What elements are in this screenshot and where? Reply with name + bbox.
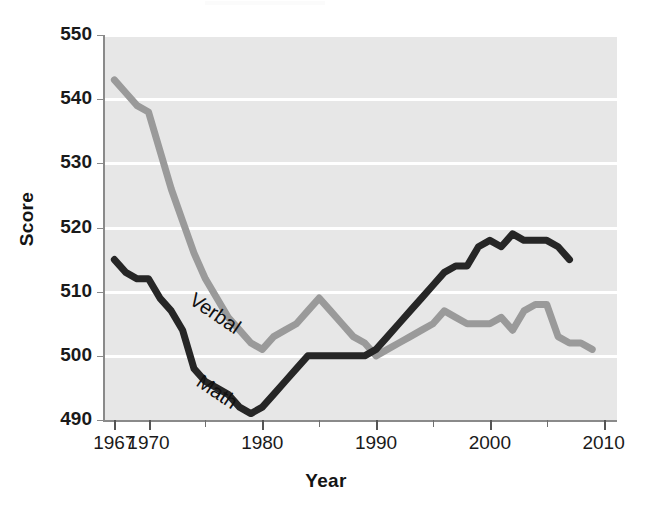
x-tick-label-1990: 1990 — [341, 432, 411, 454]
x-tick-1985 — [319, 420, 320, 427]
y-tick-label-550: 550 — [20, 23, 92, 45]
x-axis-title: Year — [0, 470, 652, 492]
y-tick-label-500: 500 — [20, 344, 92, 366]
gridline-530 — [105, 162, 617, 165]
x-tick-1975 — [205, 420, 206, 427]
x-tick-1967 — [114, 420, 116, 430]
y-tick-label-510: 510 — [20, 280, 92, 302]
x-tick-label-2000: 2000 — [455, 432, 525, 454]
x-tick-2010 — [604, 420, 606, 430]
y-tick-550 — [97, 35, 104, 36]
y-tick-label-490: 490 — [20, 408, 92, 430]
gridline-550 — [105, 34, 617, 37]
y-axis-title: Score — [16, 174, 38, 264]
gridline-540 — [105, 98, 617, 101]
x-tick-label-1980: 1980 — [227, 432, 297, 454]
x-tick-1995 — [433, 420, 434, 427]
line-chart: 550540530520510500490 196719701980199020… — [0, 0, 652, 507]
plot-area — [103, 35, 617, 420]
x-axis-line — [103, 420, 617, 422]
x-tick-1990 — [376, 420, 378, 430]
top-edge-artifact — [205, 1, 325, 5]
x-tick-label-1970: 1970 — [114, 432, 184, 454]
gridline-500 — [105, 355, 617, 358]
gridline-510 — [105, 291, 617, 294]
y-tick-530 — [97, 163, 104, 164]
gridline-520 — [105, 227, 617, 230]
x-tick-label-2010: 2010 — [569, 432, 639, 454]
x-tick-1970 — [149, 420, 151, 430]
y-tick-500 — [97, 356, 104, 357]
y-tick-510 — [97, 292, 104, 293]
x-tick-2005 — [547, 420, 548, 427]
y-tick-540 — [97, 99, 104, 100]
y-tick-520 — [97, 228, 104, 229]
x-tick-2000 — [490, 420, 492, 430]
y-tick-label-540: 540 — [20, 87, 92, 109]
y-tick-label-530: 530 — [20, 151, 92, 173]
x-tick-1980 — [262, 420, 264, 430]
